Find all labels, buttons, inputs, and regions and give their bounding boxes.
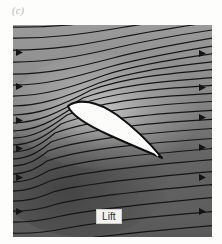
figure-root: (c) [0, 0, 222, 244]
flow-field-plot [13, 25, 212, 237]
lift-annotation-label: Lift [96, 209, 122, 224]
panel-label: (c) [12, 4, 24, 17]
streamline-svg [13, 25, 212, 237]
field-contents [13, 25, 212, 237]
